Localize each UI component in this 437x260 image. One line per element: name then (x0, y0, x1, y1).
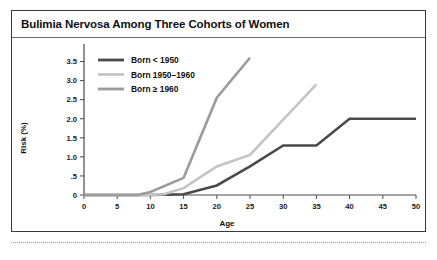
legend-label: Born 1950–1960 (131, 70, 195, 80)
x-tick-label: 40 (345, 202, 353, 211)
dotted-separator (11, 242, 426, 243)
y-tick-label: 2.0 (66, 115, 77, 124)
y-tick-label: 3.5 (66, 57, 77, 66)
y-tick-label: 1.5 (66, 134, 77, 143)
chart-legend: Born < 1950Born 1950–1960Born ≥ 1960 (98, 55, 195, 94)
x-tick-label: 45 (379, 202, 388, 211)
x-tick-label: 30 (279, 202, 287, 211)
y-tick-label: 3.0 (66, 76, 77, 85)
x-tick-label: 15 (179, 202, 188, 211)
x-axis-title: Age (219, 219, 235, 228)
x-tick-label: 5 (115, 202, 120, 211)
legend-label: Born ≥ 1960 (131, 84, 179, 94)
y-tick-label: 2.5 (66, 95, 77, 104)
y-tick-label: 1.0 (66, 153, 77, 162)
series-line (84, 119, 416, 195)
x-tick-label: 0 (82, 202, 86, 211)
y-axis: 0.51.01.52.02.53.03.5 (66, 44, 84, 200)
figure-title-bar: Bulimia Nervosa Among Three Cohorts of W… (12, 11, 425, 38)
y-tick-label: .5 (71, 172, 78, 181)
plot-area: 0.51.01.52.02.53.03.5 051015202530354045… (12, 38, 425, 231)
line-chart: 0.51.01.52.02.53.03.5 051015202530354045… (12, 38, 425, 231)
figure-panel: Bulimia Nervosa Among Three Cohorts of W… (11, 10, 426, 232)
x-tick-label: 20 (213, 202, 221, 211)
y-tick-label: 0 (73, 191, 77, 200)
chart-title: Bulimia Nervosa Among Three Cohorts of W… (21, 18, 289, 30)
legend-label: Born < 1950 (131, 55, 179, 65)
x-axis: 05101520253035404550 (82, 195, 420, 211)
x-tick-label: 35 (312, 202, 321, 211)
x-tick-label: 10 (146, 202, 154, 211)
x-tick-label: 50 (412, 202, 420, 211)
x-tick-label: 25 (246, 202, 255, 211)
y-axis-title: Risk (%) (19, 122, 28, 154)
